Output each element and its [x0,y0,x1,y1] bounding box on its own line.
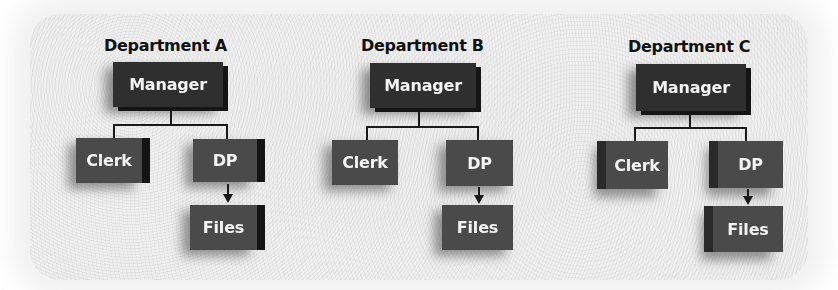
connector-vertical [418,111,420,127]
dp-box: DP [446,140,513,186]
manager-box: Manager [636,64,746,111]
connector-horizontal [113,124,228,126]
dp-label: DP [738,155,763,174]
files-box: Files [713,206,783,252]
manager-box: Manager [370,63,476,108]
clerk-box: Clerk [332,140,398,185]
connector-right-drop [226,124,228,139]
connector-left-drop [113,124,115,138]
manager-label: Manager [652,78,730,97]
files-box: Files [442,205,513,250]
clerk-label: Clerk [614,156,660,175]
connector-left-drop [366,126,368,140]
dp-box: DP [193,139,257,182]
dp-label: DP [467,154,492,173]
files-label: Files [457,218,498,237]
department-title: Department B [361,36,484,55]
clerk-box: Clerk [76,138,142,183]
files-box: Files [190,205,257,250]
dp-label: DP [213,151,238,170]
department-title: Department C [628,37,750,56]
connector-horizontal [366,126,479,128]
connector-vertical [689,113,691,128]
clerk-label: Clerk [86,151,132,170]
arrow-down-icon [223,194,233,203]
manager-label: Manager [129,75,207,94]
files-label: Files [727,220,768,239]
clerk-box: Clerk [606,141,668,189]
manager-label: Manager [384,76,462,95]
arrow-down-icon [743,196,753,205]
connector-left-drop [634,127,636,141]
connector-right-drop [477,126,479,140]
arrow-down-icon [474,195,484,204]
clerk-label: Clerk [342,153,388,172]
dp-box: DP [718,141,783,188]
files-label: Files [203,218,244,237]
connector-right-drop [745,127,747,141]
connector-vertical [170,110,172,125]
manager-box: Manager [113,62,223,107]
department-title: Department A [104,36,227,55]
connector-horizontal [634,127,747,129]
